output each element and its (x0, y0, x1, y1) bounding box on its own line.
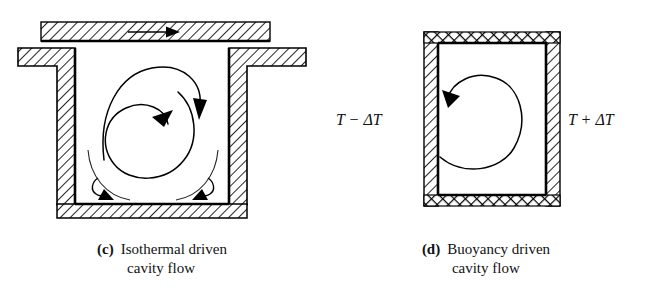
hot-wall-right (546, 32, 560, 206)
caption-text-c-line2: cavity flow (127, 259, 227, 278)
isothermal-cavity-diagram (0, 0, 324, 240)
corner-vortex-right (192, 178, 214, 200)
primary-vortex-streamline (103, 67, 200, 178)
cold-wall-temperature-label: T − ΔT (336, 111, 382, 129)
panel-isothermal-driven-cavity: (c)Isothermal driven cavity flow (0, 0, 324, 304)
primary-vortex-arrowhead-down (193, 98, 207, 120)
left-wall (18, 48, 75, 205)
corner-vortex-left (92, 178, 114, 200)
caption-buoyancy: (d)Buoyancy driven cavity flow (324, 240, 648, 278)
caption-tag-d: (d) (422, 241, 440, 257)
buoyancy-vortex-streamline (440, 75, 522, 169)
return-streamlines (88, 150, 218, 200)
figure-root: (c)Isothermal driven cavity flow (0, 0, 648, 304)
right-wall (229, 48, 306, 205)
bottom-wall-adiabatic (424, 195, 560, 206)
panel-buoyancy-driven-cavity: (d)Buoyancy driven cavity flow (324, 0, 648, 304)
hot-wall-temperature-label: T + ΔT (568, 111, 614, 129)
caption-text-d-line2: cavity flow (452, 259, 550, 278)
bottom-wall (57, 204, 247, 218)
caption-text-d-line1: Buoyancy driven (447, 241, 550, 257)
caption-text-c-line1: Isothermal driven (121, 241, 227, 257)
caption-tag-c: (c) (97, 241, 114, 257)
cold-wall-left (424, 32, 438, 206)
top-wall-adiabatic (424, 32, 560, 43)
caption-isothermal: (c)Isothermal driven cavity flow (0, 240, 324, 278)
